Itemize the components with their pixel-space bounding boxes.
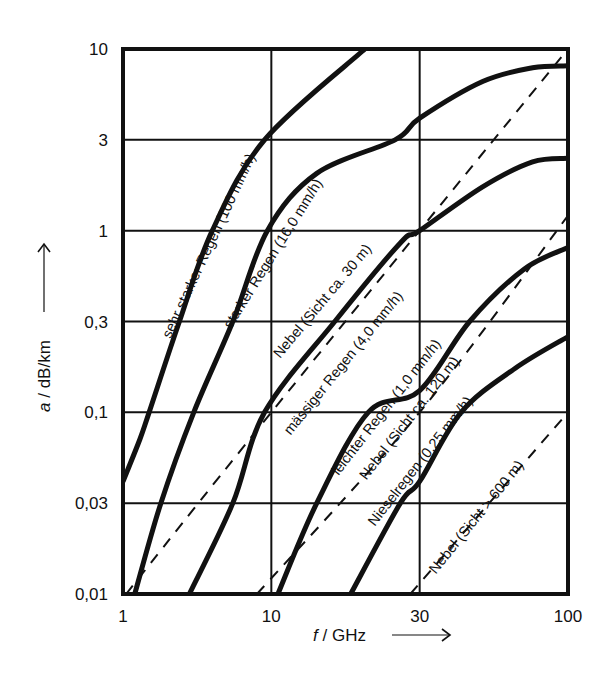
curve-mässiger-regen xyxy=(189,158,568,594)
y-tick-label: 1 xyxy=(99,222,108,241)
x-axis-label: f / GHz xyxy=(313,626,366,645)
y-axis-label: a / dB/km xyxy=(35,340,54,412)
curve-nieselregen xyxy=(351,337,568,594)
x-tick-label: 10 xyxy=(262,607,281,626)
y-tick-label: 0,01 xyxy=(75,585,108,604)
y-tick-label: 0,1 xyxy=(84,403,108,422)
y-tick-label: 0,03 xyxy=(75,494,108,513)
attenuation-chart: sehr starker Regen (100 mm/h)starker Reg… xyxy=(0,0,611,677)
y-tick-label: 3 xyxy=(99,131,108,150)
x-tick-labels: 11030100 xyxy=(118,607,582,626)
x-tick-label: 30 xyxy=(410,607,429,626)
curve-label: Nebel (Sicht > 600 m) xyxy=(426,457,527,576)
x-tick-label: 100 xyxy=(554,607,582,626)
curve-sehr-starker-regen xyxy=(123,49,365,481)
y-tick-labels: 0,010,030,10,31310 xyxy=(75,40,108,604)
x-axis-label-group: f / GHz xyxy=(313,626,450,645)
y-tick-label: 0,3 xyxy=(84,313,108,332)
y-tick-label: 10 xyxy=(89,40,108,59)
x-tick-label: 1 xyxy=(118,607,127,626)
curve-starker-regen xyxy=(135,66,568,594)
y-axis-label-group: a / dB/km xyxy=(35,244,54,412)
